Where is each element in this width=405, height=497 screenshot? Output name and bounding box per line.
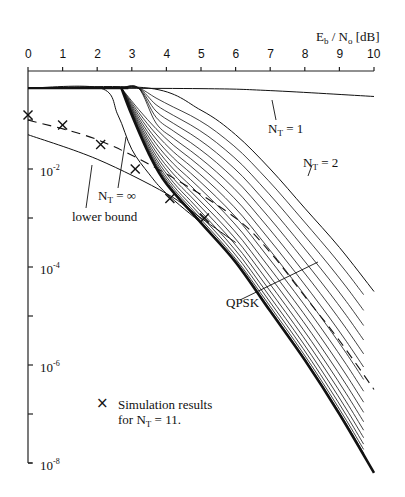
ber-chart	[0, 0, 405, 497]
ytick-label-1e-6: 10-6	[40, 360, 60, 374]
x-tick-7: 7	[267, 48, 274, 60]
x-tick-10: 10	[367, 48, 380, 60]
x-tick-5: 5	[198, 48, 205, 60]
curves	[28, 86, 374, 473]
x-tick-3: 3	[129, 48, 136, 60]
x-tick-6: 6	[233, 48, 240, 60]
simulation-marker-x	[58, 120, 67, 129]
annotation-nt2: NT = 2	[303, 156, 338, 172]
x-tick-1: 1	[60, 48, 67, 60]
annotation-lower-bound: lower bound	[72, 210, 137, 223]
curve-n-t-1	[28, 88, 374, 96]
annotation-qpsk: QPSK	[226, 296, 259, 309]
legend-text-line1: Simulation results	[118, 398, 212, 411]
x-tick-8: 8	[302, 48, 309, 60]
ytick-label-1e-8: 10-8	[40, 458, 60, 472]
nt-family-curve	[121, 88, 363, 412]
legend-text-line2: for NT = 11.	[118, 413, 181, 429]
x-tick-2: 2	[94, 48, 101, 60]
nt-family-curve	[121, 88, 363, 391]
x-axis-label: Eb / No [dB]	[316, 30, 380, 46]
annotation-nt1: NT = 1	[268, 122, 303, 138]
ytick-label-1e-4: 10-4	[40, 262, 60, 276]
x-tick-4: 4	[163, 48, 170, 60]
legend-marker: ×	[96, 396, 109, 411]
nt-family-curve	[121, 88, 363, 367]
x-tick-9: 9	[336, 48, 343, 60]
nt-family-curve	[121, 88, 363, 402]
x-tick-0: 0	[25, 48, 32, 60]
nt-family-curve	[121, 86, 363, 354]
annotation-nt-infinity: NT = ∞	[98, 189, 136, 205]
ytick-label-1e-2: 10-2	[40, 164, 60, 178]
simulation-marker-x	[131, 165, 140, 174]
